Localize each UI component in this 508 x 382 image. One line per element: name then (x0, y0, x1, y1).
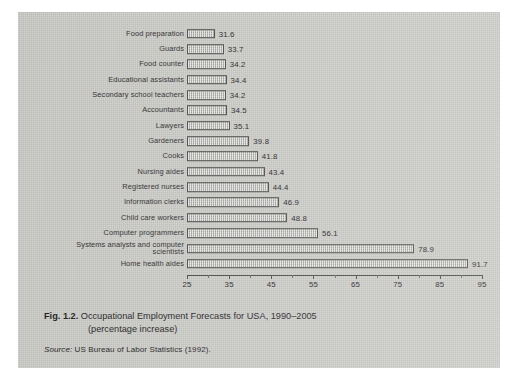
x-axis-tick-label: 75 (393, 280, 402, 289)
bar-row: Computer programmers56.1 (18, 226, 500, 241)
bar (187, 75, 227, 85)
bar (187, 152, 258, 162)
bar-value-label: 34.5 (231, 106, 247, 115)
bar (187, 106, 227, 116)
bar (187, 182, 269, 192)
x-axis-tick-label: 45 (267, 280, 276, 289)
bar-row: Educational assistants34.4 (18, 72, 500, 87)
bar-value-label: 91.7 (472, 259, 488, 268)
bar-row: Home health aides91.7 (18, 256, 500, 271)
bar-category-label: Information clerks (124, 198, 184, 206)
x-axis-tick (187, 275, 188, 279)
source-label: Source: (44, 345, 72, 354)
bar-row: Secondary school teachers34.2 (18, 87, 500, 102)
x-axis-tick (271, 275, 272, 279)
bar-category-label: Educational assistants (108, 75, 184, 83)
bar-category-label: Child care workers (121, 214, 184, 222)
x-axis-tick-label: 65 (351, 280, 360, 289)
bar-value-label: 41.8 (262, 152, 278, 161)
bar-category-label: Computer programmers (104, 229, 184, 237)
bar-chart: Food preparation31.6Guards33.7Food count… (18, 12, 500, 294)
bar-value-label: 33.7 (228, 44, 244, 53)
bar-category-label: Gardeners (148, 137, 184, 145)
bar-category-label: Secondary school teachers (92, 91, 184, 99)
bar-category-label: Guards (159, 45, 184, 53)
x-axis-tick (398, 275, 399, 279)
bar-value-label: 44.4 (273, 183, 289, 192)
source-text: US Bureau of Labor Statistics (1992). (75, 345, 211, 354)
bar (187, 228, 318, 238)
x-axis-minor-tick (208, 275, 209, 278)
bar-value-label: 56.1 (322, 229, 338, 238)
bar-value-label: 39.8 (253, 137, 269, 146)
x-axis-minor-tick (292, 275, 293, 278)
bar-row: Guards33.7 (18, 41, 500, 56)
bar (187, 29, 215, 39)
bar-row: Systems analysts and computer scientists… (18, 241, 500, 256)
x-axis-minor-tick (377, 275, 378, 278)
bar (187, 136, 249, 146)
x-axis-tick (356, 275, 357, 279)
bar (187, 90, 226, 100)
x-axis-tick-label: 85 (435, 280, 444, 289)
x-axis-tick-label: 25 (182, 280, 191, 289)
x-axis-tick (229, 275, 230, 279)
bar-value-label: 43.4 (269, 167, 285, 176)
bar-category-label: Home health aides (121, 260, 184, 268)
bar-row: Food counter34.2 (18, 57, 500, 72)
bar-category-label: Food preparation (126, 29, 184, 37)
bar-row: Lawyers35.1 (18, 118, 500, 133)
bar-row: Cooks41.8 (18, 149, 500, 164)
bar-row: Child care workers48.8 (18, 210, 500, 225)
figure-caption: Fig. 1.2. Occupational Employment Foreca… (44, 310, 474, 335)
bar-row: Registered nurses44.4 (18, 180, 500, 195)
x-axis-minor-tick (335, 275, 336, 278)
bar (187, 244, 414, 254)
x-axis-tick (440, 275, 441, 279)
bar-category-label: Food counter (139, 60, 184, 68)
x-axis-tick-label: 55 (309, 280, 318, 289)
x-axis-minor-tick (250, 275, 251, 278)
bar-category-label: Accountants (142, 106, 184, 114)
bar-value-label: 34.2 (230, 91, 246, 100)
bar-value-label: 78.9 (418, 244, 434, 253)
figure-caption-line2: (percentage increase) (44, 323, 474, 336)
bar (187, 121, 230, 131)
figure-caption-line1: Occupational Employment Forecasts for US… (81, 311, 317, 321)
bar (187, 167, 265, 177)
bar (187, 213, 287, 223)
x-axis-minor-tick (419, 275, 420, 278)
bar (187, 259, 468, 269)
bar-value-label: 46.9 (283, 198, 299, 207)
x-axis-tick-label: 35 (225, 280, 234, 289)
bar-category-label: Registered nurses (122, 183, 184, 191)
bar-row: Food preparation31.6 (18, 26, 500, 41)
bar-value-label: 48.8 (291, 213, 307, 222)
bar (187, 60, 226, 70)
figure-number: Fig. 1.2. (44, 311, 78, 321)
scanned-page-panel: Food preparation31.6Guards33.7Food count… (18, 12, 500, 368)
bar-row: Accountants34.5 (18, 103, 500, 118)
bar (187, 44, 224, 54)
bar-category-label: Cooks (163, 152, 184, 160)
bar-value-label: 35.1 (234, 121, 250, 130)
bar-category-label: Lawyers (156, 122, 184, 130)
x-axis-minor-tick (461, 275, 462, 278)
bar-value-label: 34.2 (230, 60, 246, 69)
bar-category-label: Systems analysts and computer scientists (64, 241, 184, 257)
bar-value-label: 34.4 (231, 75, 247, 84)
bar-value-label: 31.6 (219, 29, 235, 38)
x-axis-tick (313, 275, 314, 279)
bar (187, 198, 279, 208)
bar-row: Information clerks46.9 (18, 195, 500, 210)
bar-row: Nursing aides43.4 (18, 164, 500, 179)
bar-category-label: Nursing aides (138, 168, 185, 176)
x-axis-tick (482, 275, 483, 279)
x-axis-tick-label: 95 (477, 280, 486, 289)
figure-source: Source: US Bureau of Labor Statistics (1… (44, 345, 211, 354)
bar-row: Gardeners39.8 (18, 133, 500, 148)
